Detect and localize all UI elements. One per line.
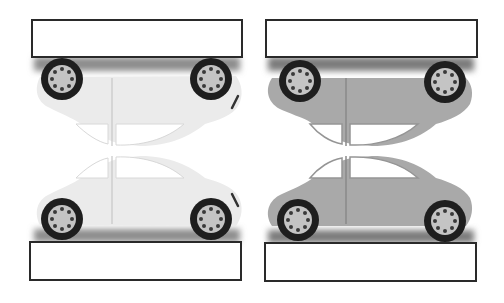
- label-box-bottom-right: [264, 242, 477, 282]
- label-box-bottom-left: [29, 241, 242, 281]
- wheel-icon: [41, 58, 83, 100]
- wheel-icon: [277, 199, 319, 241]
- label-box-top-right: [265, 19, 478, 58]
- label-box-top-left: [31, 19, 243, 58]
- wheel-icon: [41, 198, 83, 240]
- wheel-icon: [190, 58, 232, 100]
- wheel-icon: [190, 198, 232, 240]
- left-panel: [34, 57, 242, 242]
- right-panel: [268, 57, 474, 243]
- wheel-icon: [279, 60, 321, 102]
- wheel-icon: [424, 200, 466, 242]
- wheel-icon: [424, 61, 466, 103]
